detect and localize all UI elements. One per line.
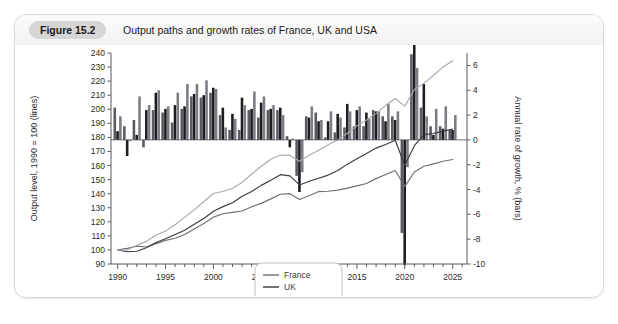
legend-label-usa: USA: [284, 294, 302, 296]
bar-france: [286, 136, 289, 140]
bar-france: [152, 110, 155, 140]
bar-france: [305, 116, 308, 140]
x-axis-tick-label: 2025: [443, 272, 462, 282]
bar-france: [123, 126, 126, 140]
bar-usa: [349, 111, 352, 140]
legend-label-uk: UK: [284, 282, 296, 292]
figure-header: Figure 15.2 Output paths and growth rate…: [15, 15, 603, 46]
right-axis-tick-label: 6: [473, 60, 478, 70]
bar-france: [247, 110, 250, 140]
bar-uk: [403, 140, 406, 265]
bar-uk: [183, 106, 186, 140]
bar-usa: [157, 90, 160, 140]
bar-france: [257, 118, 260, 140]
bar-usa: [224, 127, 227, 139]
bar-usa: [234, 119, 237, 140]
bar-uk: [260, 103, 263, 140]
bar-usa: [215, 89, 218, 140]
bar-france: [228, 130, 231, 140]
chart-legend: FranceUKUSA: [255, 263, 342, 296]
bar-uk: [451, 130, 454, 140]
bar-uk: [423, 84, 426, 140]
left-axis-title: Output level, 1990 = 100 (lines): [29, 96, 39, 221]
x-axis-tick-label: 1995: [156, 272, 175, 282]
bar-france: [267, 110, 270, 140]
bar-usa: [167, 106, 170, 140]
bar-uk: [164, 109, 167, 140]
bar-france: [429, 126, 432, 140]
bar-france: [381, 116, 384, 140]
right-axis-tick-label: 2: [473, 110, 478, 120]
left-axis-tick-label: 200: [91, 104, 105, 114]
bar-usa: [138, 96, 141, 139]
bar-france: [209, 93, 212, 140]
bar-usa: [244, 105, 247, 140]
left-axis-tick-label: 170: [91, 146, 105, 156]
left-axis-tick-label: 100: [91, 245, 105, 255]
bar-france: [276, 110, 279, 140]
bar-france: [200, 98, 203, 140]
bar-uk: [145, 110, 148, 140]
bar-france: [420, 108, 423, 140]
bar-usa: [263, 96, 266, 139]
bar-france: [161, 113, 164, 140]
x-axis-tick-label: 2015: [347, 272, 366, 282]
bar-uk: [269, 109, 272, 140]
left-axis-tick-label: 240: [91, 48, 105, 58]
bar-usa: [406, 140, 409, 167]
axes-layer: 9010011012013014015016017018019020021022…: [29, 48, 523, 282]
bar-france: [314, 113, 317, 140]
bar-france: [113, 108, 116, 140]
output-growth-chart: 9010011012013014015016017018019020021022…: [15, 45, 603, 296]
left-axis-tick-label: 150: [91, 175, 105, 185]
bar-usa: [177, 93, 180, 140]
bar-uk: [135, 135, 138, 140]
bar-uk: [126, 140, 129, 156]
left-axis-tick-label: 220: [91, 76, 105, 86]
bar-usa: [444, 106, 447, 140]
bar-france: [362, 126, 365, 140]
bar-france: [439, 126, 442, 140]
bar-france: [180, 109, 183, 140]
left-axis-tick-label: 230: [91, 62, 105, 72]
figure-caption: Output paths and growth rates of France,…: [123, 22, 377, 39]
right-axis-tick-label: -6: [473, 209, 481, 219]
bar-france: [171, 123, 174, 140]
left-axis-tick-label: 90: [96, 259, 106, 269]
bar-uk: [174, 105, 177, 140]
left-axis-tick-label: 190: [91, 118, 105, 128]
left-axis-tick-label: 160: [91, 161, 105, 171]
bar-france: [238, 130, 241, 140]
left-axis-tick-label: 210: [91, 90, 105, 100]
bar-uk: [193, 94, 196, 140]
bar-usa: [387, 104, 390, 140]
bar-uk: [222, 108, 225, 140]
bar-usa: [311, 106, 314, 140]
bar-usa: [272, 105, 275, 140]
left-axis-tick-label: 140: [91, 189, 105, 199]
left-axis-tick-label: 120: [91, 217, 105, 227]
bar-uk: [327, 121, 330, 140]
bar-uk: [116, 131, 119, 140]
bar-uk: [250, 109, 253, 140]
bar-usa: [282, 115, 285, 140]
bar-usa: [397, 111, 400, 140]
figure-card: Figure 15.2 Output paths and growth rate…: [14, 14, 604, 298]
bar-uk: [317, 121, 320, 140]
bar-uk: [384, 121, 387, 140]
right-axis-tick-label: 4: [473, 85, 478, 95]
right-axis-tick-label: -8: [473, 234, 481, 244]
bar-usa: [330, 111, 333, 140]
bar-uk: [432, 135, 435, 140]
bar-france: [295, 140, 298, 176]
right-axis-tick-label: 0: [473, 135, 478, 145]
bar-uk: [231, 114, 234, 140]
left-axis-tick-label: 130: [91, 203, 105, 213]
left-axis-tick-label: 180: [91, 132, 105, 142]
x-axis-tick-label: 2000: [204, 272, 223, 282]
bar-usa: [425, 116, 428, 140]
bar-france: [448, 130, 451, 140]
bar-usa: [205, 80, 208, 140]
figure-number-badge: Figure 15.2: [29, 21, 106, 39]
x-axis-tick-label: 2020: [395, 272, 414, 282]
